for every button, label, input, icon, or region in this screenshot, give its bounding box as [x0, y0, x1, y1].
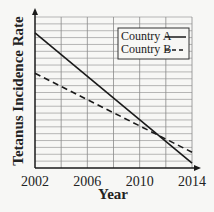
x-tick-label: 2014	[178, 174, 206, 189]
x-axis-label: Year	[98, 186, 128, 202]
x-tick-label: 2002	[21, 174, 49, 189]
y-axis-label: Tetanus Incidence Rate	[10, 16, 26, 166]
y-axis-arrow-icon	[32, 8, 38, 15]
legend-label-country-b: Country B	[121, 42, 171, 56]
line-chart: 2002200620102014 Year Tetanus Incidence …	[0, 0, 214, 212]
legend-label-country-a: Country A	[121, 29, 172, 43]
x-tick-label: 2010	[126, 174, 154, 189]
legend: Country A Country B	[118, 28, 189, 59]
x-axis-arrow-icon	[194, 165, 201, 171]
